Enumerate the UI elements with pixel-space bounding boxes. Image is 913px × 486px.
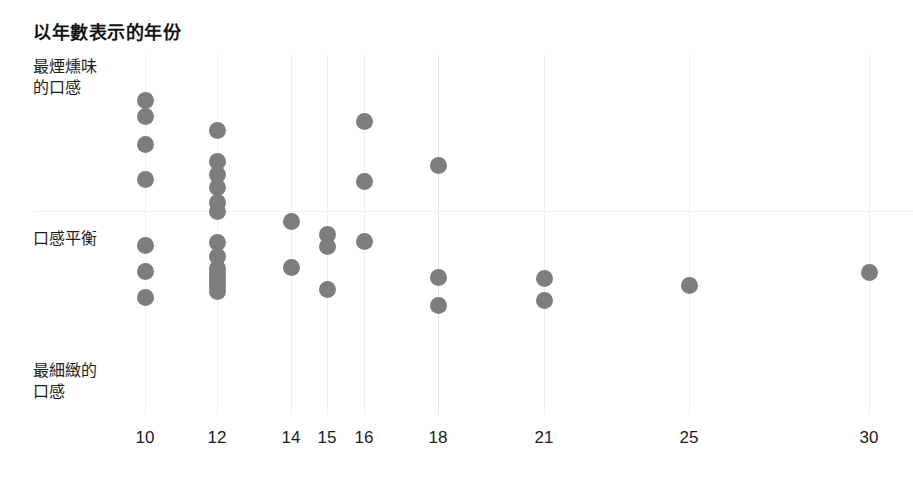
data-point — [137, 108, 154, 125]
data-point — [430, 297, 447, 314]
gridline-x-21 — [544, 55, 545, 415]
data-point — [356, 233, 373, 250]
x-tick-30: 30 — [860, 428, 879, 448]
x-tick-10: 10 — [136, 428, 155, 448]
gridline-x-30 — [869, 55, 870, 415]
data-point — [319, 238, 336, 255]
y-axis-label-most-delicate: 最細緻的 口感 — [33, 360, 97, 402]
x-tick-18: 18 — [429, 428, 448, 448]
chart-page: 以年數表示的年份 最煙燻味 的口感 口感平衡 最細緻的 口感 101214151… — [0, 0, 913, 486]
gridline-x-18 — [438, 55, 439, 415]
data-point — [319, 281, 336, 298]
data-point — [681, 277, 698, 294]
y-axis-label-smokiest: 最煙燻味 的口感 — [33, 56, 97, 98]
x-tick-16: 16 — [355, 428, 374, 448]
data-point — [209, 203, 226, 220]
x-tick-15: 15 — [318, 428, 337, 448]
gridline-x-25 — [689, 55, 690, 415]
x-tick-21: 21 — [535, 428, 554, 448]
data-point — [137, 92, 154, 109]
y-axis-label-balanced: 口感平衡 — [33, 228, 97, 249]
data-point — [137, 237, 154, 254]
data-point — [137, 136, 154, 153]
x-tick-25: 25 — [680, 428, 699, 448]
data-point — [283, 213, 300, 230]
page-title: 以年數表示的年份 — [33, 18, 181, 44]
data-point — [861, 264, 878, 281]
data-point — [283, 259, 300, 276]
x-tick-12: 12 — [208, 428, 227, 448]
x-axis-tick-labels: 101214151618212530 — [0, 428, 913, 454]
data-point — [430, 269, 447, 286]
y-axis-label-smokiest-line2: 的口感 — [33, 77, 97, 98]
data-point — [137, 263, 154, 280]
y-axis-label-most-delicate-line1: 最細緻的 — [33, 360, 97, 381]
scatter-plot-canvas — [0, 55, 913, 415]
y-axis-label-smokiest-line1: 最煙燻味 — [33, 56, 97, 77]
data-point — [356, 113, 373, 130]
y-axis-label-most-delicate-line2: 口感 — [33, 381, 97, 402]
data-point — [137, 171, 154, 188]
data-point — [209, 122, 226, 139]
data-point — [209, 283, 226, 300]
data-point — [137, 289, 154, 306]
data-point — [536, 270, 553, 287]
gridline-x-14 — [291, 55, 292, 415]
x-tick-14: 14 — [282, 428, 301, 448]
data-point — [430, 157, 447, 174]
gridline-balanced — [33, 211, 913, 212]
data-point — [356, 173, 373, 190]
data-point — [536, 292, 553, 309]
